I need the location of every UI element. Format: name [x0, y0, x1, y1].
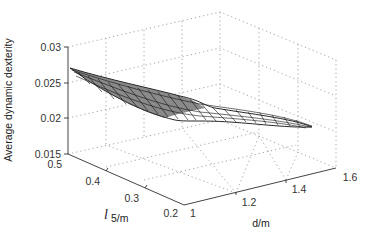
z-axis-label: Average dynamic dexterity [2, 37, 14, 161]
svg-text:0.5: 0.5 [47, 158, 62, 170]
svg-text:0.02: 0.02 [41, 112, 62, 124]
svg-text:1.4: 1.4 [292, 183, 307, 195]
y-tick-labels: 0.5 0.4 0.3 0.2 [47, 158, 178, 219]
grid-lines [68, 12, 336, 193]
svg-text:l: l [104, 207, 108, 222]
svg-text:1.6: 1.6 [343, 171, 358, 183]
svg-text:1: 1 [190, 207, 196, 219]
svg-text:1.2: 1.2 [242, 196, 257, 208]
svg-text:0.03: 0.03 [41, 41, 62, 53]
z-tick-labels: 0.03 0.025 0.02 0.015 [35, 41, 61, 160]
surface-plot: 0.03 0.025 0.02 0.015 0.5 0.4 0.3 0.2 1 … [0, 0, 382, 240]
svg-text:0.2: 0.2 [163, 207, 178, 219]
x-axis-label: d/m [252, 217, 270, 229]
svg-text:5/m: 5/m [111, 212, 129, 224]
svg-text:0.4: 0.4 [85, 175, 100, 187]
svg-text:0.025: 0.025 [35, 77, 61, 89]
y-axis-label: l 5/m [104, 207, 129, 224]
x-tick-labels: 1 1.2 1.4 1.6 [190, 171, 357, 219]
svg-text:0.3: 0.3 [124, 192, 139, 204]
